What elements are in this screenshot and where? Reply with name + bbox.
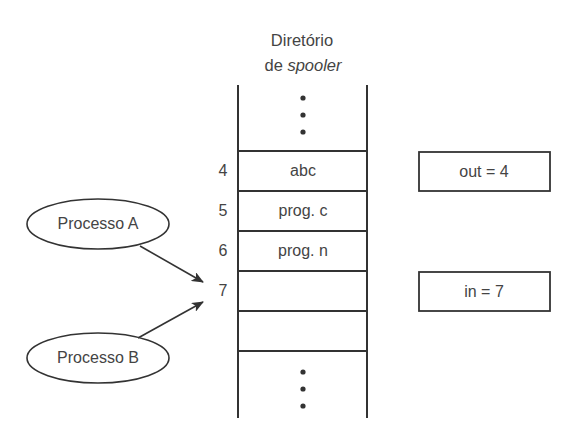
- directory-title-line1: Diretório: [271, 31, 333, 49]
- process-a-label: Processo A: [58, 215, 139, 233]
- directory-title-line2: de spooler: [264, 56, 341, 74]
- slot-value: abc: [290, 162, 316, 180]
- slot-value: prog. n: [278, 242, 328, 260]
- ellipsis-bottom-icon: [300, 369, 305, 408]
- directory-title-italic: spooler: [287, 56, 341, 74]
- slot-index: 6: [219, 242, 228, 260]
- out-pointer-label: out = 4: [459, 163, 508, 181]
- process-b-arrow-icon: [138, 302, 203, 338]
- directory-title-prefix: de: [264, 56, 287, 74]
- slot-value: prog. c: [279, 202, 328, 220]
- ellipsis-top-icon: [300, 95, 305, 134]
- process-a-arrow-icon: [140, 246, 203, 282]
- in-pointer-label: in = 7: [464, 283, 504, 301]
- slot-index: 4: [219, 162, 228, 180]
- process-b-label: Processo B: [57, 349, 139, 367]
- slot-index: 5: [219, 202, 228, 220]
- slot-index: 7: [219, 282, 228, 300]
